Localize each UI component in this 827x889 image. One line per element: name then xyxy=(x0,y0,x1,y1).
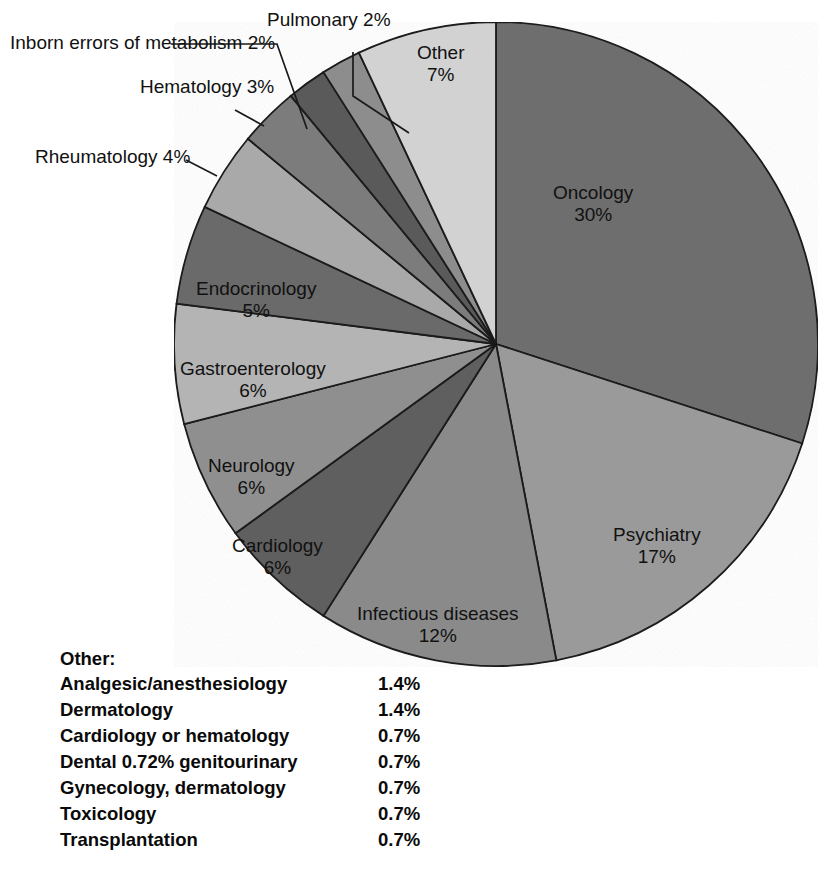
other-legend-row: Dental 0.72% genitourinary0.7% xyxy=(60,751,468,777)
other-legend-row-value: 0.7% xyxy=(378,751,468,777)
callout-label-hematology-value: 3% xyxy=(247,76,274,97)
other-legend-row-name: Gynecology, dermatology xyxy=(60,777,378,803)
other-legend-row-value: 0.7% xyxy=(378,803,468,829)
other-legend-row: Cardiology or hematology0.7% xyxy=(60,725,468,751)
other-breakdown-legend: Other: Analgesic/anesthesiology1.4%Derma… xyxy=(60,648,468,855)
other-legend-row-name: Transplantation xyxy=(60,829,378,855)
callout-label-rheumatology-title: Rheumatology xyxy=(35,146,158,167)
other-legend-row-name: Toxicology xyxy=(60,803,378,829)
other-legend-row: Dermatology1.4% xyxy=(60,699,468,725)
callout-label-inborn-errors-line1: Inborn errors of xyxy=(10,32,140,53)
leader-line-hematology xyxy=(235,110,264,126)
pie-chart-figure: Oncology 30% Psychiatry 17% Infectious d… xyxy=(0,0,827,889)
other-legend-row: Transplantation0.7% xyxy=(60,829,468,855)
callout-label-inborn-errors: Inborn errors of metabolism 2% xyxy=(10,32,275,54)
other-legend-row-value: 1.4% xyxy=(378,673,468,699)
leader-line-rheumatology xyxy=(186,160,217,176)
other-legend-row-value: 0.7% xyxy=(378,829,468,855)
callout-label-pulmonary-value: 2% xyxy=(363,9,390,30)
other-legend-row-name: Dental 0.72% genitourinary xyxy=(60,751,378,777)
other-legend-table: Analgesic/anesthesiology1.4%Dermatology1… xyxy=(60,673,468,855)
callout-label-inborn-errors-value: 2% xyxy=(248,32,275,53)
other-legend-row-name: Cardiology or hematology xyxy=(60,725,378,751)
other-legend-row-name: Analgesic/anesthesiology xyxy=(60,673,378,699)
callout-label-pulmonary: Pulmonary 2% xyxy=(267,9,391,31)
callout-label-rheumatology: Rheumatology 4% xyxy=(35,146,190,168)
callout-label-inborn-errors-line2: metabolism xyxy=(145,32,242,53)
other-legend-row: Toxicology0.7% xyxy=(60,803,468,829)
callout-label-hematology-title: Hematology xyxy=(140,76,241,97)
other-legend-row-value: 0.7% xyxy=(378,777,468,803)
other-legend-row: Gynecology, dermatology0.7% xyxy=(60,777,468,803)
callout-label-hematology: Hematology 3% xyxy=(140,76,274,98)
other-legend-row-value: 1.4% xyxy=(378,699,468,725)
other-legend-row: Analgesic/anesthesiology1.4% xyxy=(60,673,468,699)
other-legend-title: Other: xyxy=(60,648,468,670)
callout-label-rheumatology-value: 4% xyxy=(163,146,190,167)
callout-label-pulmonary-title: Pulmonary xyxy=(267,9,358,30)
other-legend-row-name: Dermatology xyxy=(60,699,378,725)
other-legend-row-value: 0.7% xyxy=(378,725,468,751)
